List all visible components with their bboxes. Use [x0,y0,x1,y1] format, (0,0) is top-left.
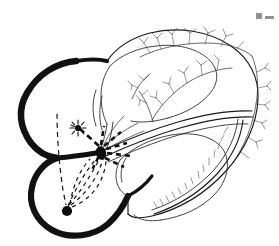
focus-dot [75,125,81,131]
artifact-block-b [265,16,274,19]
figure-root [0,0,279,246]
starburst-focus-marker [70,120,86,136]
apex-node [62,206,72,216]
artifact-block-a [256,13,262,19]
heart-anatomy-diagram [0,0,279,246]
apex-node-dot [62,206,72,216]
page-edge-artifact [256,1,274,19]
